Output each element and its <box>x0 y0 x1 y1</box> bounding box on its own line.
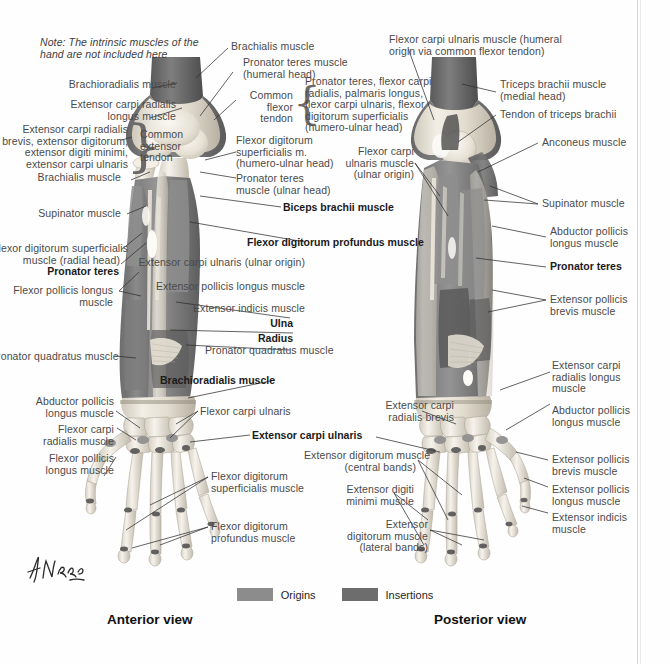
legend: Origins Insertions <box>0 588 670 601</box>
label-extensor-carpi-ulnaris: Extensor carpi ulnaris <box>252 430 362 442</box>
legend-label-origins: Origins <box>281 589 316 601</box>
legend-swatch-insertions <box>342 588 378 601</box>
view-label-posterior: Posterior view <box>434 612 526 627</box>
label-anconeus: Anconeus muscle <box>542 137 626 149</box>
legend-swatch-origins <box>237 588 273 601</box>
label-extensor-indicis-post: Extensor indicis muscle <box>552 512 627 535</box>
label-pronator-teres-right: Pronator teres <box>550 261 622 273</box>
label-pronator-teres-ulnar: Pronator teres muscle (ulnar head) <box>236 173 331 196</box>
label-supinator-left: Supinator muscle <box>0 208 121 220</box>
label-fdp-hand: Flexor digitorum profundus muscle <box>211 521 295 544</box>
note-text: Note: The intrinsic muscles of the hand … <box>40 37 199 60</box>
label-extensor-indicis-ant: Extensor indicis muscle <box>175 303 305 315</box>
label-brachioradialis-center: Brachioradialis muscle <box>130 375 275 387</box>
label-triceps-tendon: Tendon of triceps brachii <box>500 109 616 121</box>
artist-signature <box>26 548 88 588</box>
label-biceps-brachii: Biceps brachii muscle <box>283 202 394 214</box>
anatomy-plate: Note: The intrinsic muscles of the hand … <box>0 0 670 664</box>
label-extensor-pollicis-brevis-hand: Extensor pollicis brevis muscle <box>552 454 630 477</box>
label-ecu-ulnar-origin: Extensor carpi ulnaris (ulnar origin) <box>120 257 305 269</box>
label-triceps-medial: Triceps brachii muscle (medial head) <box>500 79 606 102</box>
label-ulna: Ulna <box>240 318 293 330</box>
label-ecr-brevis: Extensor carpi radialis brevis <box>348 400 454 423</box>
label-brachialis-left: Brachialis muscle <box>0 172 121 184</box>
label-brachialis-top: Brachialis muscle <box>231 41 314 53</box>
label-ed-lateral: Extensor digitorum muscle (lateral bands… <box>322 519 428 554</box>
label-flexor-pollicis-longus: Flexor pollicis longus muscle <box>0 285 113 308</box>
label-common-extensor-group: Extensor carpi radialis brevis, extensor… <box>0 124 128 170</box>
label-fds-hand: Flexor digitorum superficialis muscle <box>211 471 304 494</box>
label-extensor-pollicis-brevis-right: Extensor pollicis brevis muscle <box>550 294 628 317</box>
label-fds-radial-head: Flexor digitorum superficialis muscle (r… <box>0 243 120 266</box>
label-fdp: Flexor digitorum profundus muscle <box>247 237 424 249</box>
label-ecr-longus-right: Extensor carpi radialis longus muscle <box>552 360 621 395</box>
label-fcu-ulnar: Flexor carpi ulnaris muscle (ulnar origi… <box>330 146 414 181</box>
label-extensor-pollicis-longus: Extensor pollicis longus muscle <box>552 484 630 507</box>
label-pronator-quadratus-left: Pronator quadratus muscle <box>0 351 113 363</box>
label-fds-humero-ulnar: Flexor digitorum superficialis m. (humer… <box>236 135 334 170</box>
label-epl: Extensor pollicis longus muscle <box>145 281 305 293</box>
label-pronator-teres-left: Pronator teres <box>0 266 119 278</box>
label-flexor-carpi-ulnaris: Flexor carpi ulnaris <box>200 406 291 418</box>
label-flexor-carpi-radialis: Flexor carpi radialis muscle <box>0 424 114 447</box>
view-label-anterior: Anterior view <box>107 612 193 627</box>
label-brachioradialis: Brachioradialis muscle <box>0 79 176 91</box>
label-common-flexor-tendon: Common flexor tendon <box>231 90 293 125</box>
label-edm: Extensor digiti minimi muscle <box>320 484 414 507</box>
label-ed-central: Extensor digitorum muscle (central bands… <box>304 450 416 473</box>
legend-label-insertions: Insertions <box>386 589 434 601</box>
label-radius: Radius <box>240 333 293 345</box>
label-flexor-pollicis-longus-hand: Flexor pollicis longus muscle <box>0 453 114 476</box>
label-supinator-right: Supinator muscle <box>542 198 625 210</box>
label-abductor-pollicis-longus-hand: Abductor pollicis longus muscle <box>552 405 630 428</box>
label-pronator-quadratus-center: Pronator quadratus muscle <box>205 345 334 357</box>
label-fcu-humeral: Flexor carpi ulnaris muscle (humeral ori… <box>389 34 562 57</box>
label-common-flexor-group: Pronator teres, flexor carpi radialis, p… <box>305 76 432 134</box>
label-abductor-pollicis-longus-right: Abductor pollicis longus muscle <box>550 226 628 249</box>
label-common-extensor-tendon: Common extensor tendon <box>140 129 183 164</box>
label-abductor-pollicis-longus-left: Abductor pollicis longus muscle <box>0 396 114 419</box>
